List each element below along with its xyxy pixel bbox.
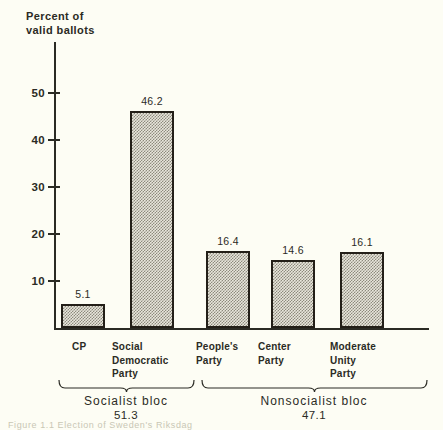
- bar-0: [61, 304, 105, 328]
- bloc-bracket-1: [201, 380, 428, 392]
- category-label-2: People's Party: [196, 340, 238, 367]
- bar-value-label-0: 5.1: [75, 288, 91, 300]
- bar-value-label-4: 16.1: [351, 236, 373, 248]
- bar-chart-figure: Percent of valid ballots 1020304050 5.14…: [0, 0, 443, 430]
- bar-value-label-3: 14.6: [282, 244, 304, 256]
- bloc-name-1: Nonsocialist bloc: [260, 392, 367, 410]
- y-tick-label-50: 50: [31, 87, 45, 99]
- y-tick-50: [48, 92, 60, 94]
- bar-4: [340, 252, 384, 328]
- bar-1: [130, 111, 174, 328]
- category-label-4: Moderate Unity Party: [330, 340, 376, 381]
- bloc-value-1: 47.1: [302, 409, 326, 421]
- figure-caption: Figure 1.1 Election of Sweden's Riksdag: [8, 420, 193, 430]
- bar-value-label-2: 16.4: [217, 235, 239, 247]
- y-axis-title: Percent of valid ballots: [26, 9, 95, 37]
- bloc-name-0: Socialist bloc: [84, 392, 168, 410]
- y-tick-label-20: 20: [31, 228, 45, 240]
- bar-2: [206, 251, 250, 328]
- y-tick-label-30: 30: [31, 181, 45, 193]
- bloc-bracket-0: [58, 380, 195, 392]
- y-tick-label-10: 10: [31, 275, 45, 287]
- bar-value-label-1: 46.2: [141, 95, 163, 107]
- y-tick-30: [48, 186, 60, 188]
- category-label-1: Social Democratic Party: [112, 340, 168, 381]
- y-tick-20: [48, 233, 60, 235]
- y-tick-40: [48, 139, 60, 141]
- plot-area: 1020304050 5.146.216.414.616.1: [54, 42, 429, 330]
- y-tick-label-40: 40: [31, 134, 45, 146]
- bar-3: [271, 260, 315, 328]
- category-label-3: Center Party: [258, 340, 291, 367]
- category-label-0: CP: [72, 340, 86, 354]
- y-tick-10: [48, 280, 60, 282]
- x-axis-line: [54, 328, 429, 330]
